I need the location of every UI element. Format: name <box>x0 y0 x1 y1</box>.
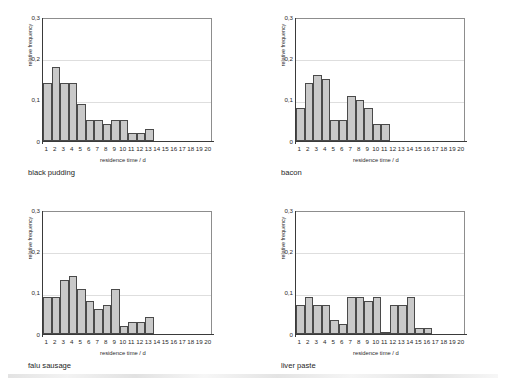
y-axis-ticks-black-pudding: 0,30,20,10 <box>14 0 40 160</box>
plot-area-liver-paste <box>295 211 465 335</box>
y-tick-label: 0,3 <box>271 208 293 214</box>
bar <box>145 317 154 334</box>
bar-series-black-pudding <box>43 17 213 141</box>
y-tick-label: 0,1 <box>271 97 293 103</box>
x-axis-line <box>42 334 214 335</box>
bar <box>43 83 52 141</box>
x-tick-label: 20 <box>203 145 213 152</box>
x-axis-ticks-falu-sausage: 1234567891011121314151617181920 <box>42 338 212 348</box>
bar-series-bacon <box>296 17 466 141</box>
bar <box>330 320 339 334</box>
bar <box>364 301 373 334</box>
bar <box>137 133 146 141</box>
y-tick-label: 0,2 <box>271 56 293 62</box>
y-tick-label: 0,2 <box>271 249 293 255</box>
x-axis-title-falu-sausage: residence time / d <box>100 350 146 357</box>
y-tick-label: 0,2 <box>18 56 40 62</box>
x-tick-label: 20 <box>456 145 466 152</box>
bar <box>77 104 86 141</box>
bar <box>381 332 390 334</box>
y-tick-label: 0,1 <box>18 290 40 296</box>
bar <box>69 276 78 334</box>
bar <box>356 100 365 141</box>
chart-caption-black-pudding: black pudding <box>28 168 75 177</box>
bar <box>145 129 154 141</box>
bar <box>373 297 382 334</box>
scan-artifact-bottom <box>8 374 498 378</box>
bar <box>373 124 382 141</box>
y-tick-label: 0,2 <box>18 249 40 255</box>
bar <box>111 120 120 141</box>
bar <box>296 108 305 141</box>
x-axis-title-black-pudding: residence time / d <box>100 157 146 164</box>
bar <box>390 305 399 334</box>
bar <box>128 133 137 141</box>
bar <box>103 305 112 334</box>
x-axis-ticks-liver-paste: 1234567891011121314151617181920 <box>295 338 465 348</box>
y-tick-label: 0,3 <box>271 15 293 21</box>
bar <box>339 120 348 141</box>
x-axis-line <box>42 141 214 142</box>
bar <box>296 305 305 334</box>
y-tick-label: 0 <box>271 332 293 338</box>
y-tick-label: 0,3 <box>18 208 40 214</box>
x-axis-ticks-black-pudding: 1234567891011121314151617181920 <box>42 145 212 155</box>
bar <box>381 124 390 141</box>
bar <box>347 297 356 334</box>
x-axis-title-liver-paste: residence time / d <box>353 350 399 357</box>
bar <box>111 289 120 334</box>
chart-caption-falu-sausage: falu sausage <box>28 361 71 370</box>
bar <box>356 297 365 334</box>
y-tick-label: 0,1 <box>271 290 293 296</box>
figure-panel-grid: relative frequency0,30,20,10123456789101… <box>0 0 506 385</box>
chart-panel-bacon: relative frequency0,30,20,10123456789101… <box>253 0 506 192</box>
bar <box>86 301 95 334</box>
bar <box>305 297 314 334</box>
bar <box>60 280 69 334</box>
bar <box>52 297 61 334</box>
chart-panel-black-pudding: relative frequency0,30,20,10123456789101… <box>0 0 253 192</box>
bar <box>322 79 331 141</box>
bar <box>313 305 322 334</box>
bar <box>120 120 129 141</box>
bar <box>415 328 424 334</box>
bar <box>347 96 356 141</box>
chart-panel-liver-paste: relative frequency0,30,20,10123456789101… <box>253 193 506 385</box>
bar <box>94 120 103 141</box>
bar <box>305 83 314 141</box>
x-tick-label: 20 <box>203 338 213 345</box>
bar <box>313 75 322 141</box>
y-tick-label: 0 <box>271 139 293 145</box>
x-tick-label: 20 <box>456 338 466 345</box>
chart-caption-liver-paste: liver paste <box>281 361 316 370</box>
y-tick-label: 0 <box>18 139 40 145</box>
chart-panel-falu-sausage: relative frequency0,30,20,10123456789101… <box>0 193 253 385</box>
x-axis-line <box>295 141 467 142</box>
bar <box>364 108 373 141</box>
y-axis-ticks-falu-sausage: 0,30,20,10 <box>14 193 40 353</box>
plot-area-bacon <box>295 18 465 142</box>
bar <box>398 305 407 334</box>
bar <box>128 322 137 334</box>
bar <box>407 297 416 334</box>
chart-caption-bacon: bacon <box>281 168 302 177</box>
x-axis-ticks-bacon: 1234567891011121314151617181920 <box>295 145 465 155</box>
y-axis-ticks-bacon: 0,30,20,10 <box>267 0 293 160</box>
y-tick-label: 0,1 <box>18 97 40 103</box>
y-tick-label: 0,3 <box>18 15 40 21</box>
x-axis-title-bacon: residence time / d <box>353 157 399 164</box>
bar <box>43 297 52 334</box>
bar <box>103 124 112 141</box>
plot-area-black-pudding <box>42 18 212 142</box>
y-tick-label: 0 <box>18 332 40 338</box>
plot-area-falu-sausage <box>42 211 212 335</box>
bar <box>339 324 348 334</box>
bar-series-liver-paste <box>296 210 466 334</box>
y-axis-ticks-liver-paste: 0,30,20,10 <box>267 193 293 353</box>
bar <box>60 83 69 141</box>
bar <box>86 120 95 141</box>
bar <box>52 67 61 141</box>
bar <box>424 328 433 334</box>
bar <box>330 120 339 141</box>
bar <box>322 305 331 334</box>
